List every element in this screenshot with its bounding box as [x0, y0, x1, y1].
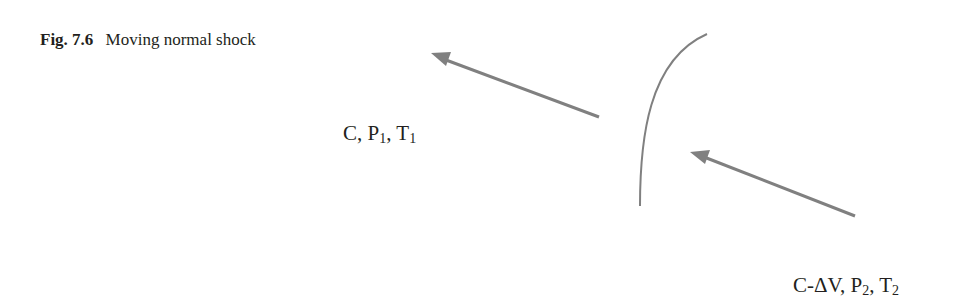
- upstream-temperature-subscript: 1: [409, 131, 416, 146]
- upstream-pressure: P: [368, 121, 380, 145]
- downstream-state-label: C-ΔV, P2, T2: [793, 273, 899, 297]
- separator: ,: [386, 121, 396, 145]
- upstream-state-label: C, P1, T1: [343, 121, 416, 145]
- downstream-pressure: P: [850, 273, 862, 297]
- separator: ,: [869, 273, 879, 297]
- shock-wave-curve: [640, 34, 707, 206]
- separator: ,: [357, 121, 368, 145]
- downstream-flow-arrow-icon: [690, 150, 855, 216]
- upstream-temperature: T: [396, 121, 409, 145]
- downstream-velocity: C-ΔV: [793, 273, 840, 297]
- downstream-temperature-subscript: 2: [892, 283, 899, 298]
- separator: ,: [840, 273, 851, 297]
- upstream-velocity: C: [343, 121, 357, 145]
- upstream-flow-arrow-icon: [431, 52, 599, 117]
- shock-diagram: [0, 0, 967, 305]
- downstream-temperature: T: [879, 273, 892, 297]
